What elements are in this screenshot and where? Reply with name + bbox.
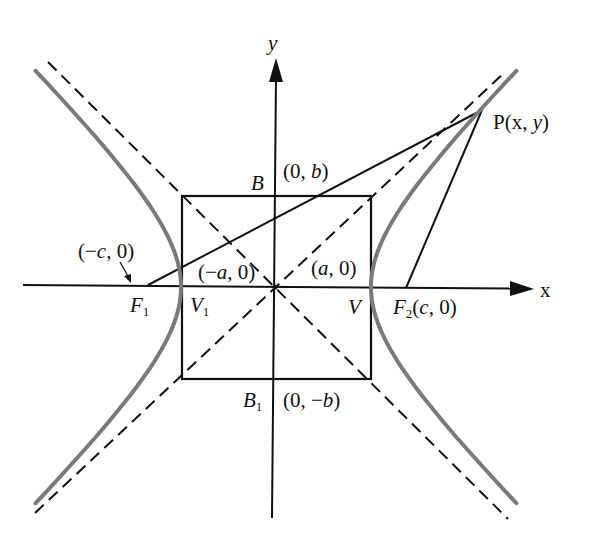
label-neg-c-0: (−c, 0) bbox=[78, 239, 134, 263]
label-F2-c-0: F2(c, 0) bbox=[392, 295, 457, 321]
label-subscript: 1 bbox=[143, 304, 150, 319]
label-part: , 0) bbox=[106, 239, 134, 263]
label-B1: B1 bbox=[243, 388, 262, 414]
line-F2-to-P bbox=[406, 110, 482, 288]
label-var: F bbox=[392, 295, 406, 319]
label-var: a bbox=[318, 256, 329, 280]
y-axis bbox=[272, 76, 276, 518]
label-part: ( bbox=[412, 295, 419, 319]
label-part: (− bbox=[198, 260, 217, 284]
label-0-neg-b: (0, −b) bbox=[283, 388, 340, 412]
diagram-canvas: y x B (0, b) (−c, 0) (−a, 0) (a, 0) F1 V… bbox=[0, 0, 596, 544]
label-part: ) bbox=[333, 388, 340, 412]
label-neg-a-0: (−a, 0) bbox=[198, 260, 255, 284]
label-var: b bbox=[311, 159, 322, 183]
y-axis-label: y bbox=[266, 31, 278, 55]
label-F1: F1 bbox=[129, 293, 149, 319]
label-part: ) bbox=[542, 110, 549, 134]
hyperbola-left-branch bbox=[36, 71, 181, 503]
focus-pointer-arrow-icon bbox=[124, 274, 131, 283]
label-a-0: (a, 0) bbox=[311, 256, 357, 280]
label-var: b bbox=[323, 388, 334, 412]
x-axis-label: x bbox=[540, 278, 551, 302]
asymptote-positive-slope bbox=[35, 72, 505, 513]
label-V: V bbox=[348, 295, 363, 319]
asymptote-negative-slope bbox=[48, 62, 508, 519]
y-axis-arrowhead-icon bbox=[269, 58, 283, 82]
label-subscript: 1 bbox=[203, 304, 210, 319]
label-part: (− bbox=[78, 239, 97, 263]
x-axis-arrowhead-icon bbox=[510, 281, 534, 296]
label-part: P(x, bbox=[493, 110, 533, 134]
label-var: B bbox=[243, 388, 256, 412]
label-var: F bbox=[129, 293, 143, 317]
label-part: , 0) bbox=[329, 256, 357, 280]
label-part: ) bbox=[322, 159, 329, 183]
x-axis bbox=[23, 285, 520, 289]
label-part: , 0) bbox=[227, 260, 255, 284]
label-part: (0, bbox=[283, 159, 311, 183]
origin-point bbox=[273, 285, 278, 290]
label-0-b: (0, b) bbox=[283, 159, 329, 183]
label-subscript: 1 bbox=[256, 399, 263, 414]
label-P-x-y: P(x, y) bbox=[493, 110, 549, 134]
label-var: y bbox=[531, 110, 543, 134]
label-part: (0, − bbox=[283, 388, 323, 412]
hyperbola-diagram: y x B (0, b) (−c, 0) (−a, 0) (a, 0) F1 V… bbox=[0, 0, 596, 544]
label-part: , 0) bbox=[429, 295, 457, 319]
label-var: a bbox=[217, 260, 228, 284]
label-B: B bbox=[251, 171, 264, 195]
label-part: ( bbox=[311, 256, 318, 280]
label-V1: V1 bbox=[190, 293, 209, 319]
